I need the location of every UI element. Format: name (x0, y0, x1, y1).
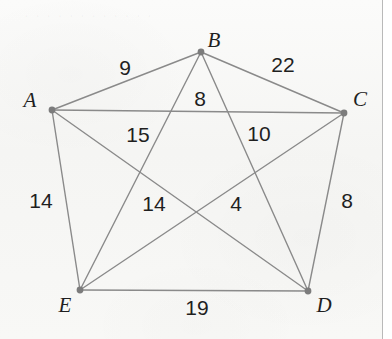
edge-weight-b-c: 22 (271, 54, 294, 75)
vertices-group (49, 49, 348, 295)
edge-weight-b-d: 10 (247, 123, 270, 144)
vertex-label-c: C (353, 89, 367, 110)
edge-b-d (201, 52, 308, 291)
vertex-node-e (77, 287, 84, 294)
edge-weight-a-e: 14 (29, 190, 52, 211)
graph-drawing (0, 0, 392, 339)
edge-a-c (52, 110, 344, 113)
edge-weight-c-e: 4 (230, 193, 242, 214)
vertex-node-b (198, 49, 205, 56)
edge-b-e (80, 52, 201, 290)
vertex-node-a (49, 107, 56, 114)
page-right-margin (383, 0, 392, 339)
vertex-label-d: D (316, 295, 331, 316)
edge-c-e (80, 113, 344, 290)
vertex-label-b: B (208, 30, 221, 51)
vertex-label-a: A (24, 90, 37, 111)
vertex-node-d (305, 288, 312, 295)
edge-d-e (80, 290, 308, 291)
vertex-node-c (341, 110, 348, 117)
edge-c-d (308, 113, 344, 291)
edge-weight-c-d: 8 (341, 190, 353, 211)
edge-weight-b-e: 14 (142, 193, 165, 214)
figure-canvas: · · · · · · · · · · · · 9228151014144819… (0, 0, 392, 339)
edge-a-e (52, 110, 80, 290)
edge-weight-a-d: 15 (126, 124, 149, 145)
edge-weight-d-e: 19 (185, 297, 208, 318)
edge-weight-a-c: 8 (194, 88, 206, 109)
edge-weight-a-b: 9 (119, 57, 131, 78)
vertex-label-e: E (59, 295, 72, 316)
